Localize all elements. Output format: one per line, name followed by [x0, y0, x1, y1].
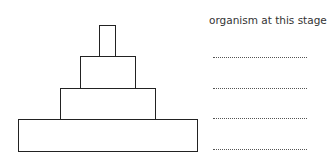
column-header: organism at this stage [209, 14, 327, 26]
answer-line-level-2[interactable] [213, 88, 307, 89]
pyramid-level-base [18, 119, 198, 152]
pyramid-level-top [99, 25, 116, 57]
pyramid-level-third [60, 88, 156, 120]
answer-line-level-3[interactable] [213, 118, 307, 119]
answer-line-level-1[interactable] [213, 57, 307, 58]
answer-line-level-4[interactable] [213, 149, 307, 150]
pyramid-level-second [80, 56, 136, 89]
